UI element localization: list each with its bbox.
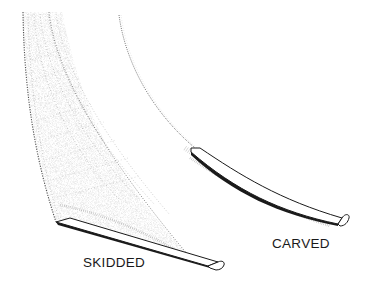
carved-label: CARVED [272, 236, 330, 251]
carved-track [119, 15, 335, 226]
carved-ski [191, 148, 349, 226]
skidded-label: SKIDDED [83, 255, 145, 270]
skidded-track [23, 12, 190, 258]
